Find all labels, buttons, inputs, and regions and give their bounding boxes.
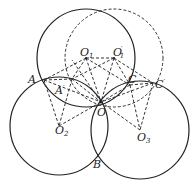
label-O1: O1 (80, 46, 94, 60)
label-A: A (27, 73, 36, 86)
geometry-diagram: O1 O′1 A A′ C C′ O O2 O3 B (0, 0, 194, 184)
label-O1-prime: O′1 (113, 45, 124, 60)
label-B: B (92, 158, 101, 171)
label-C: C (128, 73, 137, 86)
label-O: O (97, 106, 106, 119)
label-A-prime: A′ (54, 84, 65, 97)
label-O3: O3 (137, 131, 151, 145)
label-C-prime: C′ (155, 78, 165, 91)
label-O2: O2 (55, 124, 69, 138)
point-O (99, 100, 102, 103)
